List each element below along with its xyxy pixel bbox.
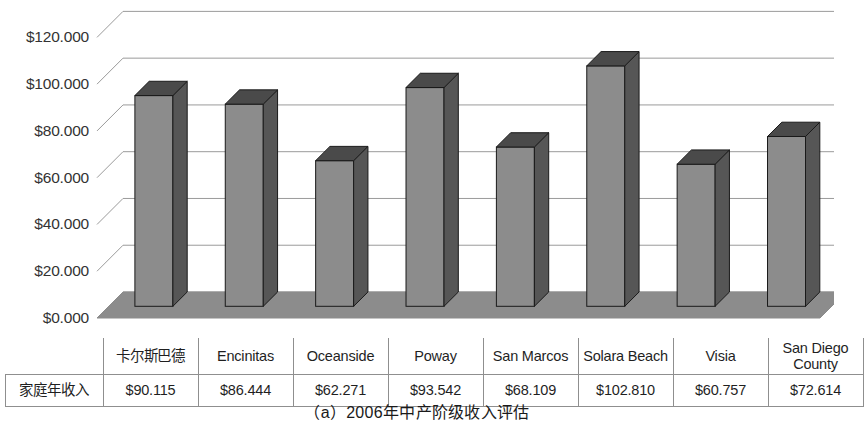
chart-svg [0, 0, 834, 340]
table-header-row: 卡尔斯巴德EncinitasOceansidePowaySan MarcosSo… [6, 338, 864, 375]
bar-front-face [587, 66, 625, 306]
y-axis-tick-label: $0.000 [0, 309, 89, 327]
bar-front-face [496, 147, 534, 306]
bar-side-face [534, 133, 548, 307]
bar-side-face [625, 52, 639, 307]
bar-2 [225, 90, 277, 306]
table-header-cell: Poway [388, 338, 483, 375]
bar-side-face [354, 146, 368, 306]
bar-side-face [173, 81, 187, 306]
bar-front-face [316, 161, 354, 307]
bar-5 [496, 133, 548, 307]
y-axis-tick-label: $40.000 [0, 215, 89, 233]
bar-side-face [444, 73, 458, 306]
bar-side-face [806, 122, 820, 306]
bar-front-face [768, 136, 806, 306]
table-header-cell: Encinitas [198, 338, 293, 375]
table-header-cell: San Marcos [483, 338, 578, 375]
figure-caption: （a）2006年中产阶级收入评估 [0, 399, 834, 423]
table-header-cell: 卡尔斯巴德 [103, 338, 198, 375]
y-axis-tick-label: $20.000 [0, 262, 89, 280]
bar-front-face [225, 104, 263, 306]
y-axis-tick-label: $120.000 [0, 28, 89, 46]
bar-3 [316, 146, 368, 306]
table-header-cell: Oceanside [293, 338, 388, 375]
data-table: 卡尔斯巴德EncinitasOceansidePowaySan MarcosSo… [5, 338, 864, 407]
bar-7 [677, 150, 729, 306]
y-axis-tick-label: $100.000 [0, 75, 89, 93]
bar-4 [406, 73, 458, 306]
bar-8 [768, 122, 820, 306]
table-header-cell: San Diego County [768, 338, 863, 375]
bar-1 [135, 81, 187, 306]
bar-6 [587, 52, 639, 307]
y-axis-tick-label: $60.000 [0, 169, 89, 187]
table-header-cell: Solara Beach [578, 338, 673, 375]
bar-front-face [677, 164, 715, 306]
bar-side-face [715, 150, 729, 306]
table-header-cell: Visia [673, 338, 768, 375]
y-axis-tick-label: $80.000 [0, 122, 89, 140]
bar-front-face [135, 96, 173, 307]
bar-side-face [263, 90, 277, 306]
bar-front-face [406, 88, 444, 307]
chart-plot-area: $0.000$20.000$40.000$60.000$80.000$100.0… [0, 0, 834, 340]
table-corner-cell [6, 338, 104, 375]
